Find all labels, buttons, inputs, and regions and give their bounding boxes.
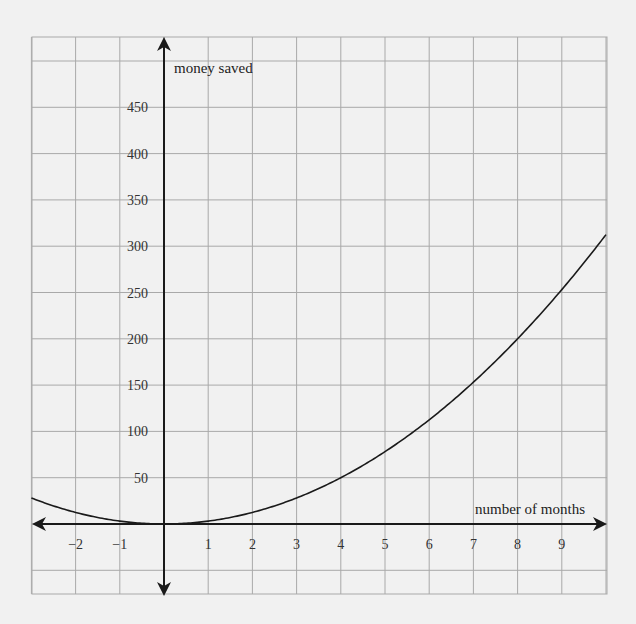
y-tick-label: 350	[127, 193, 148, 208]
money-saved-curve	[31, 235, 606, 524]
y-tick-label: 150	[127, 378, 148, 393]
y-tick-label: 450	[127, 100, 148, 115]
y-tick-label: 100	[127, 424, 148, 439]
x-tick-label: 9	[558, 537, 565, 552]
y-axis-label: money saved	[174, 60, 253, 76]
x-tick-label: 2	[249, 537, 256, 552]
x-tick-label: 6	[426, 537, 433, 552]
y-tick-label: 50	[134, 471, 148, 486]
curve-layer	[31, 235, 606, 524]
x-axis-label: number of months	[475, 501, 585, 517]
x-tick-label: −2	[68, 537, 83, 552]
x-tick-labels: −2−1123456789	[68, 537, 565, 552]
x-tick-label: 7	[470, 537, 477, 552]
y-tick-label: 200	[127, 332, 148, 347]
y-tick-labels: 50100150200250300350400450	[127, 100, 148, 485]
y-tick-label: 300	[127, 239, 148, 254]
parabola-chart: −2−1123456789 50100150200250300350400450…	[0, 0, 636, 624]
x-tick-label: 1	[205, 537, 212, 552]
x-tick-label: 5	[382, 537, 389, 552]
x-tick-label: 4	[337, 537, 344, 552]
y-tick-label: 400	[127, 147, 148, 162]
x-tick-label: 8	[514, 537, 521, 552]
x-tick-label: 3	[293, 537, 300, 552]
y-tick-label: 250	[127, 286, 148, 301]
x-tick-label: −1	[112, 537, 127, 552]
